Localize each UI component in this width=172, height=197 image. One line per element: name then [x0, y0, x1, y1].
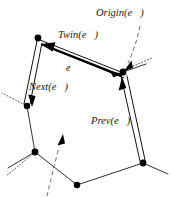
- label-edge-e-text: e⃗: [66, 62, 78, 73]
- label-prev-text: Prev(e⃗): [90, 115, 131, 127]
- next-edge-line-inner: [30, 43, 42, 104]
- vertex-bottom: [74, 182, 80, 188]
- plain-edge-bottomright-stub: [143, 163, 168, 174]
- origin-dashed-pointer-line: [128, 26, 140, 63]
- label-twin: Twin(e⃗): [58, 29, 99, 41]
- next-edge-line-outer: [24, 41, 37, 104]
- face-dashed-pointer-arrowhead: [58, 134, 66, 146]
- label-origin-text: Origin(e⃗): [96, 7, 144, 19]
- dcel-diagram-canvas: Origin(e⃗) Twin(e⃗) e⃗ Next(e⃗) Prev(e⃗): [0, 0, 172, 197]
- next-edge-group: [24, 41, 42, 107]
- label-edge-e: e⃗: [66, 62, 78, 73]
- vertex-bottom-right: [140, 160, 147, 167]
- edge-e-line: [46, 46, 122, 76]
- vertex-left-middle: [24, 103, 30, 109]
- vertex-right: [120, 69, 127, 76]
- label-prev: Prev(e⃗): [90, 115, 131, 127]
- edge-e-group: [41, 42, 123, 76]
- label-next-text: Next(e⃗): [28, 81, 69, 93]
- vertex-top-left: [35, 35, 42, 42]
- prev-edge-arrowhead: [119, 77, 127, 91]
- stub-lower-left-dotted-line: [6, 154, 33, 176]
- dcel-figure: Origin(e⃗) Twin(e⃗) e⃗ Next(e⃗) Prev(e⃗): [0, 0, 172, 197]
- label-twin-text: Twin(e⃗): [58, 29, 99, 41]
- plain-edge-lowerleft-stub: [8, 152, 35, 168]
- face-dashed-pointer-line: [47, 147, 59, 196]
- plain-edge-lowerleft-bottom: [35, 152, 77, 185]
- label-origin: Origin(e⃗): [96, 7, 144, 19]
- vertex-lower-left: [32, 149, 39, 156]
- label-next: Next(e⃗): [28, 81, 69, 93]
- stub-left-dotted-line: [2, 93, 25, 105]
- plain-edge-bottom-bottomright: [77, 163, 143, 185]
- plain-edge-leftmiddle-lowerleft: [27, 106, 35, 152]
